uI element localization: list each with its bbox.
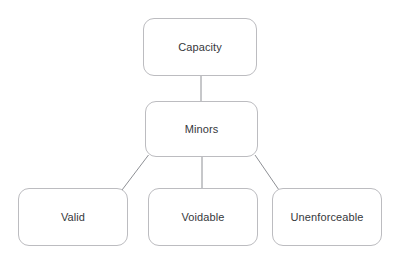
node-capacity-label: Capacity xyxy=(178,41,222,54)
node-capacity[interactable]: Capacity xyxy=(143,18,257,76)
node-unenforceable-label: Unenforceable xyxy=(291,211,364,224)
node-minors-label: Minors xyxy=(185,123,219,136)
node-voidable[interactable]: Voidable xyxy=(148,188,258,246)
connector-minors-to-unenforceable xyxy=(255,155,279,190)
node-valid[interactable]: Valid xyxy=(18,188,128,246)
node-valid-label: Valid xyxy=(61,211,85,224)
connector-minors-to-valid xyxy=(122,155,149,190)
node-voidable-label: Voidable xyxy=(181,211,224,224)
diagram-canvas: Capacity Minors Valid Voidable Unenforce… xyxy=(0,0,398,261)
node-unenforceable[interactable]: Unenforceable xyxy=(272,188,382,246)
node-minors[interactable]: Minors xyxy=(145,101,258,157)
